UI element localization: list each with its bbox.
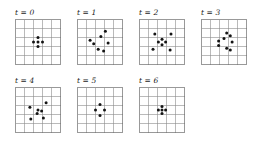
particle-dot [152, 48, 155, 51]
particle-dot [157, 41, 160, 44]
grid-border [140, 20, 185, 65]
grid-border [78, 20, 123, 65]
grid-timeseries-figure: t = 0t = 1t = 2t = 3t = 4t = 5t = 6 [0, 0, 278, 157]
timestep-panel: t = 3 [201, 8, 246, 64]
particle-dot [153, 32, 156, 35]
lattice-grid [15, 19, 61, 65]
particle-dot [99, 114, 102, 117]
lattice-grid [201, 19, 247, 65]
particle-dot [161, 38, 164, 41]
particle-dot [37, 36, 40, 39]
particle-dot [104, 30, 107, 33]
particle-dot [45, 101, 48, 104]
particle-dot [40, 109, 43, 112]
particle-dot [161, 109, 164, 112]
particle-dot [99, 103, 102, 106]
particle-dot [89, 39, 92, 42]
particle-dot [107, 41, 110, 44]
timestep-label: t = 5 [77, 76, 96, 85]
particle-dot [29, 118, 32, 121]
timestep-panel: t = 6 [139, 76, 184, 132]
particle-dot [229, 34, 232, 37]
particle-dot [102, 50, 105, 53]
particle-dot [217, 44, 220, 47]
lattice-grid [15, 87, 61, 133]
particle-dot [225, 32, 228, 35]
timestep-panel: t = 0 [15, 8, 60, 64]
particle-dot [37, 109, 40, 112]
particle-dot [36, 112, 39, 115]
particle-dot [99, 35, 102, 38]
timestep-label: t = 3 [201, 8, 220, 17]
particle-dot [161, 43, 164, 46]
particle-dot [169, 49, 172, 52]
timestep-label: t = 4 [15, 76, 34, 85]
particle-dot [164, 109, 167, 112]
particle-dot [97, 48, 100, 51]
particle-dot [217, 40, 220, 43]
timestep-panel: t = 2 [139, 8, 184, 64]
timestep-label: t = 2 [139, 8, 158, 17]
particle-dot [92, 42, 95, 45]
particle-dot [42, 117, 45, 120]
particle-dot [37, 41, 40, 44]
particle-dot [229, 49, 232, 52]
timestep-label: t = 1 [77, 8, 96, 17]
particle-dot [161, 112, 164, 115]
particle-dot [37, 45, 40, 48]
timestep-panel: t = 5 [77, 76, 122, 132]
particle-dot [28, 106, 31, 109]
timestep-panel: t = 4 [15, 76, 60, 132]
particle-dot [32, 41, 35, 44]
grid-border [78, 88, 123, 133]
timestep-label: t = 6 [139, 76, 158, 85]
particle-dot [225, 47, 228, 50]
particle-dot [94, 109, 97, 112]
lattice-grid [77, 87, 123, 133]
lattice-grid [77, 19, 123, 65]
timestep-panel: t = 1 [77, 8, 122, 64]
lattice-grid [139, 87, 185, 133]
particle-dot [164, 41, 167, 44]
particle-dot [103, 109, 106, 112]
particle-dot [231, 41, 234, 44]
timestep-label: t = 0 [15, 8, 34, 17]
particle-dot [41, 41, 44, 44]
particle-dot [161, 105, 164, 108]
particle-dot [223, 37, 226, 40]
grid-border [202, 20, 247, 65]
lattice-grid [139, 19, 185, 65]
particle-dot [157, 109, 160, 112]
particle-dot [170, 32, 173, 35]
